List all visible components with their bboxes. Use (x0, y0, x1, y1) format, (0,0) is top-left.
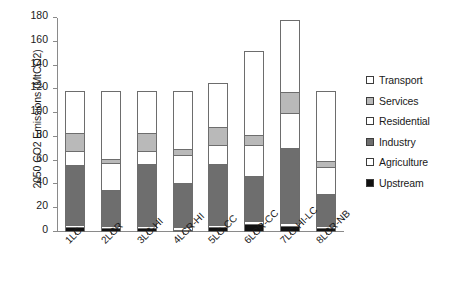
y-axis-tick-label: 120 (30, 80, 48, 92)
y-axis-tick: 60 (1, 160, 57, 161)
bar-segment-transport[interactable] (101, 91, 121, 160)
legend-swatch-residential-icon (366, 117, 374, 125)
bar-stack (137, 18, 157, 232)
chart-legend: TransportServicesResidentialIndustryAgri… (366, 70, 458, 193)
bar-segment-services[interactable] (65, 133, 85, 151)
legend-swatch-industry-icon (366, 138, 374, 146)
bar-segment-transport[interactable] (65, 91, 85, 134)
legend-swatch-agriculture-icon (366, 158, 374, 166)
y-axis-tick-label: 100 (30, 104, 48, 116)
bar-segment-industry[interactable] (280, 148, 300, 223)
bar-segment-residential[interactable] (65, 151, 85, 165)
bar-segment-transport[interactable] (137, 91, 157, 134)
bar-segment-residential[interactable] (208, 145, 228, 164)
legend-swatch-upstream-icon (366, 179, 374, 187)
bar-segment-transport[interactable] (208, 83, 228, 127)
bar-group[interactable] (173, 18, 193, 232)
bar-segment-transport[interactable] (280, 20, 300, 91)
y-axis-tick: 20 (1, 207, 57, 208)
bar-segment-residential[interactable] (280, 113, 300, 147)
bar-segment-transport[interactable] (173, 91, 193, 149)
bar-segment-industry[interactable] (137, 164, 157, 226)
legend-swatch-services-icon (366, 97, 374, 105)
legend-swatch-transport-icon (366, 76, 374, 84)
legend-item-industry[interactable]: Industry (366, 132, 458, 153)
bar-segment-services[interactable] (137, 133, 157, 151)
bar-segment-residential[interactable] (244, 145, 264, 176)
y-axis-tick: 40 (1, 183, 57, 184)
bar-stack (208, 18, 228, 232)
bar-segment-residential[interactable] (173, 155, 193, 184)
bar-segment-residential[interactable] (137, 151, 157, 164)
legend-label: Residential (379, 115, 430, 127)
legend-item-agriculture[interactable]: Agriculture (366, 152, 458, 173)
stacked-bar-chart: 2050 CO2 Emissions (MtCO2) 1801601401201… (0, 0, 458, 293)
bar-segment-residential[interactable] (316, 167, 336, 194)
y-axis-tick-label: 40 (36, 175, 48, 187)
legend-label: Services (379, 95, 418, 107)
bar-stack (280, 18, 300, 232)
bar-stack (316, 18, 336, 232)
y-axis-tick: 120 (1, 88, 57, 89)
bar-segment-services[interactable] (173, 149, 193, 155)
y-axis-tick-label: 60 (36, 152, 48, 164)
y-axis-tick: 160 (1, 41, 57, 42)
bar-stack (65, 18, 85, 232)
legend-label: Transport (379, 74, 423, 86)
bar-segment-residential[interactable] (101, 163, 121, 190)
y-axis-tick: 100 (1, 112, 57, 113)
bar-stack (244, 18, 264, 232)
y-axis-tick: 80 (1, 136, 57, 137)
legend-item-transport[interactable]: Transport (366, 70, 458, 91)
y-axis-tick-label: 80 (36, 128, 48, 140)
legend-label: Agriculture (379, 156, 428, 168)
legend-item-services[interactable]: Services (366, 91, 458, 112)
bar-segment-transport[interactable] (244, 51, 264, 134)
bar-segment-transport[interactable] (316, 91, 336, 161)
bar-segment-industry[interactable] (65, 165, 85, 224)
bar-segment-industry[interactable] (244, 176, 264, 221)
legend-label: Upstream (379, 177, 424, 189)
y-axis-tick-label: 20 (36, 199, 48, 211)
x-axis-labels: 1LC2LCR3LC-HI4LCR-HI5LC-CC6LCR-CC7LC-HI-… (57, 234, 344, 293)
y-axis-tick-label: 160 (30, 33, 48, 45)
bar-group[interactable] (101, 18, 121, 232)
y-axis-tick: 180 (1, 17, 57, 18)
bars-layer (57, 18, 344, 232)
bar-segment-services[interactable] (101, 159, 121, 163)
y-axis-tick-label: 140 (30, 57, 48, 69)
y-axis-tick: 140 (1, 65, 57, 66)
bar-segment-services[interactable] (244, 135, 264, 146)
plot-area: 180160140120100806040200 (57, 18, 344, 232)
y-axis-tick-label: 180 (30, 9, 48, 21)
bar-segment-services[interactable] (316, 161, 336, 167)
bar-segment-industry[interactable] (208, 164, 228, 225)
bar-stack (101, 18, 121, 232)
bar-group[interactable] (280, 18, 300, 232)
bar-group[interactable] (244, 18, 264, 232)
y-axis-tick-label: 0 (42, 223, 48, 235)
bar-group[interactable] (137, 18, 157, 232)
legend-label: Industry (379, 136, 416, 148)
bar-group[interactable] (65, 18, 85, 232)
bar-stack (173, 18, 193, 232)
legend-item-residential[interactable]: Residential (366, 111, 458, 132)
legend-item-upstream[interactable]: Upstream (366, 173, 458, 194)
y-axis-tick: 0 (1, 231, 57, 232)
y-axis-title: 2050 CO2 Emissions (MtCO2) (31, 19, 47, 219)
bar-group[interactable] (316, 18, 336, 232)
bar-group[interactable] (208, 18, 228, 232)
bar-segment-services[interactable] (280, 92, 300, 113)
bar-segment-services[interactable] (208, 127, 228, 145)
